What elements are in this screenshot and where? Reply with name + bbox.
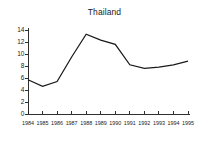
y-axis-tick-label: 4 bbox=[10, 87, 24, 94]
y-axis-tick-label: 0 bbox=[10, 111, 24, 118]
y-axis-tick-label: 10 bbox=[10, 51, 24, 58]
y-axis-tick-label: 14 bbox=[10, 27, 24, 34]
chart-page: Thailand 0246810121419841985198619871988… bbox=[0, 0, 209, 144]
y-axis-tick-label: 8 bbox=[10, 63, 24, 70]
x-axis-tick-label: 1995 bbox=[177, 120, 199, 126]
y-axis-tick-label: 6 bbox=[10, 75, 24, 82]
data-series-line bbox=[28, 34, 188, 86]
y-axis-tick-label: 12 bbox=[10, 39, 24, 46]
y-axis-tick-label: 2 bbox=[10, 99, 24, 106]
